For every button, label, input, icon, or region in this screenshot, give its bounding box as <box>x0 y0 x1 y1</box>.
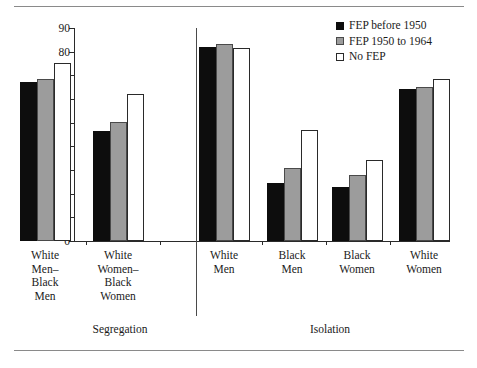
bar <box>54 63 71 241</box>
panel-label-isolation: Isolation <box>210 323 450 335</box>
y-axis-tick-label: 90 <box>48 23 70 33</box>
bar <box>284 168 301 241</box>
legend-item: No FEP <box>336 49 432 65</box>
bar <box>93 131 110 241</box>
bar <box>332 187 349 241</box>
x-axis-tick <box>262 241 263 245</box>
bar <box>416 87 433 241</box>
x-axis-tick <box>86 241 87 245</box>
panel-divider <box>196 28 197 316</box>
bar <box>366 160 383 241</box>
x-axis-group-label: White Men– Black Men <box>5 249 85 303</box>
bar <box>127 94 144 241</box>
legend-item-label: FEP before 1950 <box>349 18 427 34</box>
x-axis-tick <box>326 241 327 245</box>
legend-item: FEP before 1950 <box>336 18 432 34</box>
bar <box>110 122 127 241</box>
x-axis-group-label: White Women <box>384 249 464 276</box>
plot-area: Percentage 0102030405060708090 White Men… <box>0 0 477 368</box>
bar <box>433 79 450 241</box>
bar <box>399 89 416 241</box>
y-axis-tick-label-holder: 80 <box>46 52 70 62</box>
bar <box>20 82 37 241</box>
figure: Percentage 0102030405060708090 White Men… <box>0 0 477 368</box>
filled-gray-square-icon <box>336 37 344 45</box>
x-axis-tick <box>160 241 161 245</box>
bar <box>301 130 318 241</box>
bar <box>37 79 54 241</box>
bar <box>349 175 366 241</box>
bar <box>199 47 216 241</box>
bar <box>267 183 284 241</box>
y-axis-tick-label-holder: 90 <box>46 28 70 38</box>
legend-item-label: No FEP <box>349 49 386 65</box>
y-axis-tick-label: 80 <box>48 47 70 57</box>
chart-legend: FEP before 1950FEP 1950 to 1964No FEP <box>336 18 432 65</box>
x-axis-tick <box>390 241 391 245</box>
x-axis-group-label: White Women– Black Women <box>78 249 158 303</box>
open-square-icon <box>336 53 344 61</box>
legend-item: FEP 1950 to 1964 <box>336 34 432 50</box>
bar <box>216 44 233 241</box>
legend-item-label: FEP 1950 to 1964 <box>349 34 432 50</box>
panel-label-segregation: Segregation <box>50 323 190 335</box>
filled-black-square-icon <box>336 22 344 30</box>
bar <box>233 48 250 241</box>
